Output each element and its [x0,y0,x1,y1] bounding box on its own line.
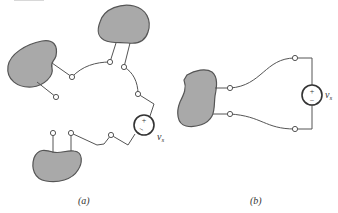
terminal-node [135,91,140,96]
terminal-node [292,126,297,131]
panel-b-label: (b) [250,195,262,207]
network-blob-top [98,5,149,43]
terminal-node [68,130,73,135]
terminal-node [53,94,58,99]
terminal-node [107,59,112,64]
source-label-a: vs [157,131,164,144]
terminal-node [108,132,113,137]
network-blob-left [8,41,57,87]
plus-sign: + [142,116,147,125]
circuit-figure: + − vs (a) + − vs (b) [0,0,338,213]
terminal-node [227,85,232,90]
panel-b: + − vs (b) [178,55,333,207]
terminal-node [69,74,74,79]
terminal-node [227,111,232,116]
minus-sign: − [310,96,315,105]
network-blob-bottom [33,150,81,181]
source-label-b: vs [325,89,332,102]
plus-sign: + [310,87,315,96]
terminal-node [50,130,55,135]
terminal-node [121,64,126,69]
network-blob-right [178,70,217,127]
panel-a-label: (a) [78,195,90,207]
panel-a: + − vs (a) [8,5,165,207]
terminal-node [292,55,297,60]
